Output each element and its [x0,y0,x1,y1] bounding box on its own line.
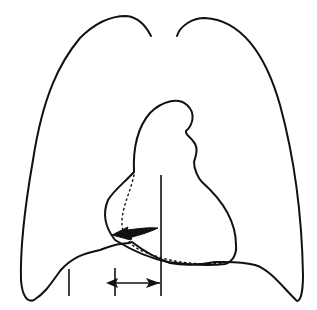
heart-outline [105,101,236,265]
measurement-double-arrow [106,268,160,296]
heart-inner-contour [122,175,222,264]
shift-arrow-icon [112,227,158,240]
chest-diagram [0,0,317,310]
diagram-canvas [0,0,317,310]
